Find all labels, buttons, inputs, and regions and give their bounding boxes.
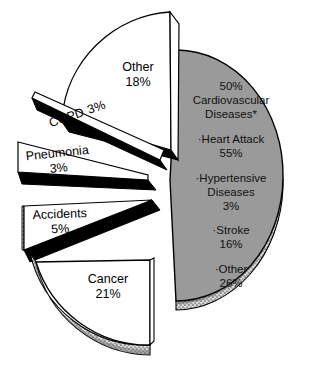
slice-cardiovascular [170,50,283,310]
slice-accidents [22,200,160,262]
pie-chart: Other 18% COPD 3% Pneumonia 3% Accidents… [0,0,330,367]
pie-chart-graphic [0,0,330,367]
slice-cancer [30,253,154,355]
